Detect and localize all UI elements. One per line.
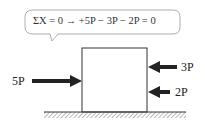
- arrow-2p-icon: [148, 86, 170, 98]
- force-label-3p: 3P: [181, 61, 194, 73]
- equilibrium-equation: ΣX = 0 → +5P − 3P − 2P = 0: [33, 16, 156, 27]
- ground-hatch: [44, 112, 186, 118]
- force-label-2p: 2P: [175, 86, 188, 98]
- arrow-5p-icon: [32, 75, 82, 87]
- force-label-5p: 5P: [12, 75, 25, 87]
- arrow-3p-icon: [148, 61, 177, 73]
- block: [82, 48, 147, 112]
